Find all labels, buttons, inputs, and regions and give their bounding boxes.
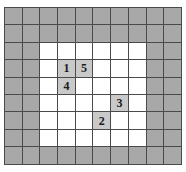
grid-cell-inner-r5c3[interactable] (40, 77, 58, 94)
grid-cell-border-r6c2 (22, 94, 40, 111)
grid-cell-border-r9c8 (128, 147, 146, 164)
grid-puzzle-figure: 15432 (4, 7, 181, 164)
grid-cell-border-r3c2 (22, 42, 40, 59)
grid-row: 2 (5, 112, 182, 129)
grid-cell-border-r7c9 (146, 112, 164, 129)
puzzle-grid: 15432 (4, 7, 182, 165)
grid-cell-inner-r8c3[interactable] (40, 129, 58, 146)
grid-cell-border-r9c4 (58, 147, 76, 164)
grid-cell-border-r9c1 (5, 147, 23, 164)
grid-body: 15432 (5, 8, 182, 165)
grid-cell-border-r4c1 (5, 60, 23, 77)
grid-cell-inner-r6c8[interactable] (128, 94, 146, 111)
grid-cell-border-r3c9 (146, 42, 164, 59)
grid-cell-border-r9c5 (75, 147, 93, 164)
grid-cell-border-r2c4 (58, 25, 76, 42)
grid-cell-border-r4c10 (164, 60, 182, 77)
grid-row: 4 (5, 77, 182, 94)
grid-cell-inner-r6c5[interactable] (75, 94, 93, 111)
grid-cell-inner-r3c3[interactable] (40, 42, 58, 59)
grid-cell-inner-r7c3[interactable] (40, 112, 58, 129)
grid-cell-value-5[interactable]: 5 (75, 60, 93, 77)
grid-cell-border-r3c1 (5, 42, 23, 59)
grid-cell-border-r9c7 (111, 147, 129, 164)
grid-row: 15 (5, 60, 182, 77)
grid-cell-border-r2c6 (93, 25, 111, 42)
grid-cell-inner-r3c7[interactable] (111, 42, 129, 59)
grid-cell-inner-r4c7[interactable] (111, 60, 129, 77)
grid-cell-border-r9c6 (93, 147, 111, 164)
grid-cell-inner-r3c6[interactable] (93, 42, 111, 59)
grid-cell-border-r5c10 (164, 77, 182, 94)
grid-cell-border-r1c10 (164, 8, 182, 25)
grid-cell-value-2[interactable]: 2 (93, 112, 111, 129)
grid-cell-inner-r3c8[interactable] (128, 42, 146, 59)
grid-cell-inner-r7c5[interactable] (75, 112, 93, 129)
grid-cell-inner-r8c5[interactable] (75, 129, 93, 146)
grid-cell-inner-r5c5[interactable] (75, 77, 93, 94)
grid-cell-value-1[interactable]: 1 (58, 60, 76, 77)
grid-cell-inner-r3c4[interactable] (58, 42, 76, 59)
grid-cell-border-r8c9 (146, 129, 164, 146)
grid-cell-border-r2c2 (22, 25, 40, 42)
grid-cell-border-r1c6 (93, 8, 111, 25)
grid-cell-border-r7c2 (22, 112, 40, 129)
grid-cell-inner-r8c7[interactable] (111, 129, 129, 146)
grid-cell-border-r1c3 (40, 8, 58, 25)
grid-cell-border-r1c1 (5, 8, 23, 25)
grid-cell-inner-r8c4[interactable] (58, 129, 76, 146)
grid-cell-border-r9c9 (146, 147, 164, 164)
grid-cell-inner-r6c6[interactable] (93, 94, 111, 111)
grid-cell-border-r2c3 (40, 25, 58, 42)
grid-row (5, 147, 182, 164)
grid-cell-border-r1c2 (22, 8, 40, 25)
grid-cell-value-4[interactable]: 4 (58, 77, 76, 94)
grid-cell-border-r6c10 (164, 94, 182, 111)
grid-cell-inner-r5c7[interactable] (111, 77, 129, 94)
grid-row (5, 8, 182, 25)
grid-cell-border-r1c5 (75, 8, 93, 25)
grid-cell-border-r6c1 (5, 94, 23, 111)
grid-row (5, 42, 182, 59)
grid-cell-border-r7c1 (5, 112, 23, 129)
grid-cell-border-r1c8 (128, 8, 146, 25)
grid-cell-inner-r7c8[interactable] (128, 112, 146, 129)
grid-cell-border-r2c1 (5, 25, 23, 42)
grid-cell-border-r8c2 (22, 129, 40, 146)
grid-cell-inner-r7c4[interactable] (58, 112, 76, 129)
grid-cell-border-r2c5 (75, 25, 93, 42)
grid-cell-border-r9c3 (40, 147, 58, 164)
grid-cell-border-r2c9 (146, 25, 164, 42)
grid-cell-border-r2c10 (164, 25, 182, 42)
grid-cell-value-3[interactable]: 3 (111, 94, 129, 111)
grid-cell-border-r9c2 (22, 147, 40, 164)
grid-row (5, 25, 182, 42)
grid-cell-inner-r4c8[interactable] (128, 60, 146, 77)
grid-cell-border-r3c10 (164, 42, 182, 59)
grid-cell-border-r2c8 (128, 25, 146, 42)
grid-cell-border-r8c10 (164, 129, 182, 146)
grid-cell-border-r7c10 (164, 112, 182, 129)
grid-row: 3 (5, 94, 182, 111)
grid-cell-inner-r5c6[interactable] (93, 77, 111, 94)
grid-cell-inner-r7c7[interactable] (111, 112, 129, 129)
grid-cell-border-r5c9 (146, 77, 164, 94)
grid-cell-border-r9c10 (164, 147, 182, 164)
grid-cell-inner-r6c4[interactable] (58, 94, 76, 111)
grid-cell-border-r1c9 (146, 8, 164, 25)
grid-cell-inner-r8c8[interactable] (128, 129, 146, 146)
grid-cell-inner-r4c3[interactable] (40, 60, 58, 77)
grid-cell-inner-r4c6[interactable] (93, 60, 111, 77)
grid-cell-border-r8c1 (5, 129, 23, 146)
grid-cell-border-r1c4 (58, 8, 76, 25)
grid-cell-border-r5c1 (5, 77, 23, 94)
grid-cell-border-r4c2 (22, 60, 40, 77)
grid-cell-border-r2c7 (111, 25, 129, 42)
grid-cell-inner-r6c3[interactable] (40, 94, 58, 111)
grid-cell-border-r1c7 (111, 8, 129, 25)
grid-cell-inner-r8c6[interactable] (93, 129, 111, 146)
grid-cell-inner-r3c5[interactable] (75, 42, 93, 59)
grid-cell-border-r4c9 (146, 60, 164, 77)
grid-cell-border-r5c2 (22, 77, 40, 94)
grid-cell-inner-r5c8[interactable] (128, 77, 146, 94)
